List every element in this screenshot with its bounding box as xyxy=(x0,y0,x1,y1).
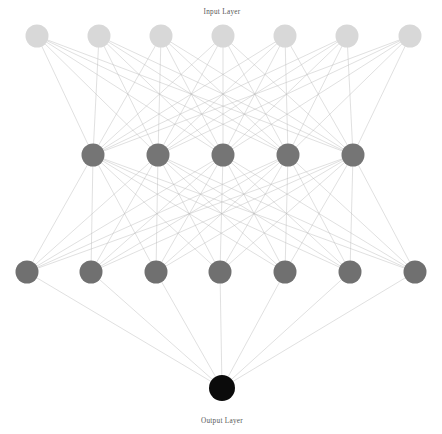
network-edge xyxy=(223,36,347,155)
network-edge xyxy=(27,155,223,272)
network-edge xyxy=(93,36,285,155)
network-node-layer2-0 xyxy=(16,261,39,284)
network-edge xyxy=(91,155,353,272)
network-edge xyxy=(91,155,158,272)
network-edge xyxy=(99,36,353,155)
network-edge xyxy=(99,36,223,155)
network-node-layer0-0 xyxy=(26,25,49,48)
network-node-layer3-0 xyxy=(209,375,235,401)
network-node-layer1-3 xyxy=(277,144,300,167)
network-edge xyxy=(93,36,347,155)
network-edge xyxy=(350,155,353,272)
network-edge xyxy=(353,36,410,155)
network-node-layer2-3 xyxy=(209,261,232,284)
network-edge xyxy=(347,36,353,155)
network-edge xyxy=(220,155,353,272)
network-edge xyxy=(156,272,222,388)
network-node-layer2-5 xyxy=(339,261,362,284)
network-edge xyxy=(91,272,222,388)
network-edge xyxy=(93,36,410,155)
network-node-layer0-2 xyxy=(150,25,173,48)
network-edge xyxy=(37,36,158,155)
network-edge xyxy=(37,36,288,155)
network-edge xyxy=(93,36,99,155)
network-edge xyxy=(158,36,161,155)
network-node-layer2-1 xyxy=(80,261,103,284)
network-node-layer2-6 xyxy=(404,261,427,284)
network-node-layer1-2 xyxy=(212,144,235,167)
network-node-layer0-4 xyxy=(274,25,297,48)
network-node-layer2-2 xyxy=(145,261,168,284)
network-edge xyxy=(222,272,415,388)
network-edge xyxy=(222,272,350,388)
network-edge xyxy=(220,155,288,272)
network-node-layer2-4 xyxy=(274,261,297,284)
network-node-layer0-6 xyxy=(399,25,422,48)
network-edge xyxy=(220,272,222,388)
network-edge xyxy=(156,155,353,272)
network-canvas: Input Layer Output Layer xyxy=(0,0,442,434)
network-edge xyxy=(161,36,223,155)
network-edge xyxy=(158,36,410,155)
network-edge xyxy=(158,36,285,155)
network-edge xyxy=(27,155,353,272)
network-edge xyxy=(288,36,410,155)
network-edge xyxy=(158,155,220,272)
network-edge xyxy=(27,272,222,388)
network-edge xyxy=(27,155,93,272)
network-edge xyxy=(93,36,223,155)
network-edge xyxy=(285,155,353,272)
network-edge xyxy=(285,36,288,155)
network-edge xyxy=(222,272,285,388)
network-edge xyxy=(161,36,288,155)
network-edge xyxy=(223,36,353,155)
network-edge xyxy=(99,36,288,155)
network-node-layer0-5 xyxy=(336,25,359,48)
network-edge xyxy=(353,155,415,272)
network-edge xyxy=(158,36,347,155)
network-edge xyxy=(161,36,353,155)
output-layer-label: Output Layer xyxy=(201,417,243,425)
network-node-layer0-3 xyxy=(212,25,235,48)
network-node-layer1-0 xyxy=(82,144,105,167)
neural-network-diagram: Input Layer Output Layer xyxy=(0,0,442,434)
network-node-layer1-4 xyxy=(342,144,365,167)
input-layer-label: Input Layer xyxy=(203,8,240,16)
network-node-layer1-1 xyxy=(147,144,170,167)
network-edge xyxy=(223,36,285,155)
network-edge xyxy=(288,36,347,155)
network-edge xyxy=(223,36,288,155)
edges-group xyxy=(27,36,415,388)
network-edge xyxy=(158,36,223,155)
network-node-layer0-1 xyxy=(88,25,111,48)
network-edge xyxy=(99,36,158,155)
